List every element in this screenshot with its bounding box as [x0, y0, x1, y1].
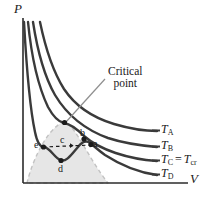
tcr-symbol: T	[184, 152, 191, 166]
two-phase-dome-region	[27, 122, 108, 183]
isotherm-label-tc: TC=Tcr	[161, 153, 197, 166]
pv-diagram-canvas	[0, 0, 205, 199]
isotherm-label-ta-sub: A	[168, 128, 174, 137]
isotherm-label-tb: TB	[161, 139, 173, 152]
critical-point-callout-line1: Critical	[108, 65, 143, 77]
isotherm-label-tc-symbol: T	[161, 152, 168, 166]
isotherm-label-tc-sub: C	[168, 158, 173, 167]
point-label-e: e	[34, 140, 38, 151]
isotherm-label-ta-symbol: T	[161, 122, 168, 136]
isotherm-label-ta: TA	[161, 123, 173, 136]
isotherm-label-td-sub: D	[168, 172, 174, 181]
isotherm-label-tc-equals: =	[173, 152, 184, 166]
tcr-sub: cr	[191, 158, 197, 167]
critical-point-callout: Critical point	[108, 65, 143, 89]
pv-diagram-figure: P V Critical point TA TB TC=Tcr TD a b c…	[0, 0, 205, 199]
point-label-d: d	[58, 164, 63, 175]
critical-point-marker	[62, 120, 67, 125]
isotherm-label-tb-symbol: T	[161, 138, 168, 152]
point-label-b: b	[80, 128, 85, 139]
point-marker-e	[41, 144, 46, 149]
pressure-axis-label: P	[14, 2, 22, 16]
isotherm-label-td-symbol: T	[161, 166, 168, 180]
point-label-a: a	[93, 139, 97, 150]
volume-axis-label: V	[190, 172, 198, 186]
critical-point-callout-line2: point	[108, 77, 143, 89]
isotherm-label-td: TD	[161, 167, 173, 180]
point-label-c: c	[60, 135, 64, 146]
